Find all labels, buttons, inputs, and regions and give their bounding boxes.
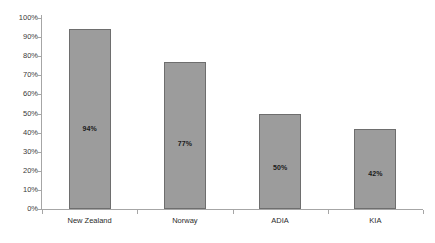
bar-value-label: 77% [165,140,205,147]
bar: 77% [164,62,206,209]
x-axis-tick-mark [423,210,424,214]
y-axis-tick-label: 30% [23,147,38,156]
x-axis-category-label: Norway [137,216,232,225]
y-axis-tick-label: 90% [23,32,38,41]
bar-value-label: 42% [355,170,395,177]
x-axis-tick-mark [233,210,234,214]
bar: 94% [69,29,111,209]
y-axis-tick-mark [37,209,41,210]
x-axis-category-label: ADIA [233,216,328,225]
bar-chart: 100%90%80%70%60%50%40%30%20%10%0% 94%New… [0,0,435,243]
bar-value-label: 50% [260,164,300,171]
y-axis-tick-label: 40% [23,128,38,137]
y-axis-tick-label: 80% [23,51,38,60]
y-axis-tick-label: 70% [23,70,38,79]
y-axis-tick-label: 50% [23,109,38,118]
bar: 50% [259,114,301,210]
x-axis-category-label: KIA [328,216,423,225]
bar-value-label: 94% [70,125,110,132]
y-axis-tick-label: 20% [23,166,38,175]
y-axis-tick-label: 100% [19,13,38,22]
x-axis-tick-mark [328,210,329,214]
y-axis-tick-label: 10% [23,185,38,194]
x-axis-tick-mark [137,210,138,214]
x-axis-category-label: New Zealand [42,216,137,225]
x-axis-tick-mark [42,210,43,214]
bar: 42% [354,129,396,209]
y-axis-tick-label: 60% [23,89,38,98]
chart-title [0,0,435,1]
